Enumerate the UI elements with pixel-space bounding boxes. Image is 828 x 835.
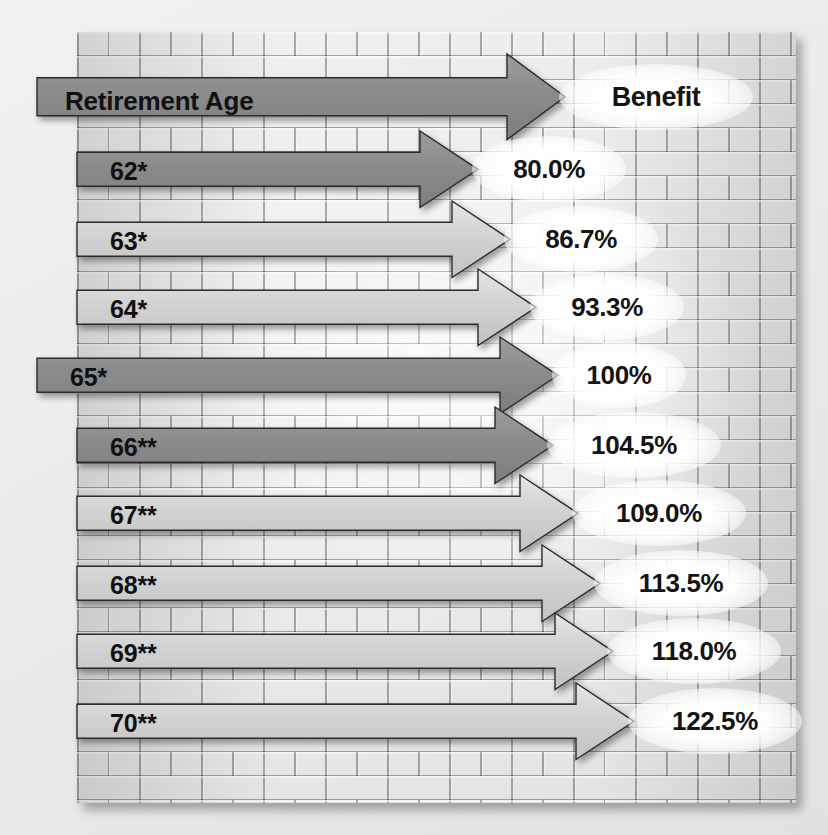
bubble-value: 86.7% — [545, 224, 617, 255]
row-label-age-68: 68** — [110, 568, 156, 602]
chart-screenshot: Retirement AgeBenefit62*80.0%63*86.7%64*… — [0, 0, 828, 835]
row-label-age-62: 62* — [110, 154, 147, 188]
value-bubble-age-69: 118.0% — [607, 618, 781, 684]
bubble-value: 100% — [587, 360, 652, 391]
bubble-value: 93.3% — [571, 292, 643, 323]
bubble-value: 113.5% — [639, 568, 723, 599]
value-bubble-age-65: 100% — [552, 342, 686, 408]
bubble-value: 118.0% — [652, 636, 736, 667]
bubble-value: 109.0% — [616, 498, 702, 529]
row-label-age-66: 66** — [110, 430, 156, 464]
row-label-age-67: 67** — [110, 498, 156, 532]
value-bubble-header: Benefit — [559, 64, 753, 130]
value-bubble-age-70: 122.5% — [628, 688, 802, 754]
value-bubble-age-63: 86.7% — [504, 206, 658, 272]
arrow-age-69 — [77, 613, 613, 690]
value-bubble-age-67: 109.0% — [572, 480, 746, 546]
bubble-value: Benefit — [612, 82, 701, 113]
row-label-age-64: 64* — [110, 292, 147, 326]
arrow-age-70 — [77, 683, 634, 760]
value-bubble-age-62: 80.0% — [472, 136, 626, 202]
value-bubble-age-64: 93.3% — [530, 274, 684, 340]
bubble-value: 80.0% — [513, 154, 585, 185]
arrow-age-65 — [37, 337, 558, 414]
row-label-age-63: 63* — [110, 224, 147, 258]
row-label-age-69: 69** — [110, 636, 156, 670]
bubble-value: 104.5% — [591, 430, 677, 461]
row-label-age-70: 70** — [110, 706, 156, 740]
row-label-age-65: 65* — [70, 360, 107, 394]
bubble-value: 122.5% — [672, 706, 758, 737]
value-bubble-age-66: 104.5% — [547, 412, 721, 478]
header-label-retirement-age: Retirement Age — [65, 82, 253, 120]
value-bubble-age-68: 113.5% — [594, 550, 768, 616]
